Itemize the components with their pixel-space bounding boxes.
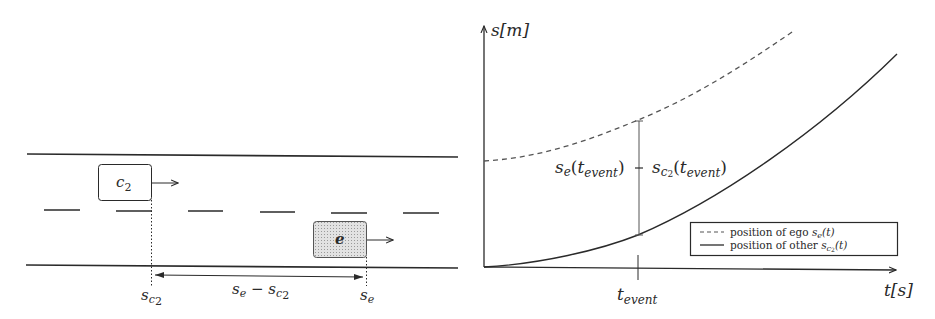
other-vehicle: c2 bbox=[99, 165, 179, 201]
x-axis-label: t[s] bbox=[884, 280, 913, 300]
lane-divider bbox=[44, 210, 439, 213]
event-tick-label: tevent bbox=[617, 284, 658, 307]
ego-vehicle: e bbox=[314, 222, 394, 258]
road-scene: c2 e sc2 se se − sc2 bbox=[26, 154, 458, 308]
other-position-label: sc2 bbox=[141, 286, 162, 308]
ego-position-label: se bbox=[360, 286, 375, 306]
distance-label: se − sc2 bbox=[232, 280, 289, 302]
ego-vehicle-label: e bbox=[335, 230, 345, 248]
position-time-plot: s[m] t[s] tevent se(tevent) sc2(tevent) … bbox=[484, 20, 913, 307]
gap-annotation-right: sc2(tevent) bbox=[652, 157, 727, 180]
x-axis bbox=[484, 267, 896, 270]
road-top-edge bbox=[27, 154, 458, 157]
gap-annotation-left: se(tevent) bbox=[555, 157, 625, 180]
diagram-canvas: c2 e sc2 se se − sc2 s[m] t[s] bbox=[0, 0, 935, 319]
y-axis-label: s[m] bbox=[491, 20, 529, 40]
legend: position of ego se(t) position of other … bbox=[691, 223, 898, 256]
road-bottom-edge bbox=[26, 265, 458, 268]
distance-arrow-icon bbox=[155, 275, 363, 277]
